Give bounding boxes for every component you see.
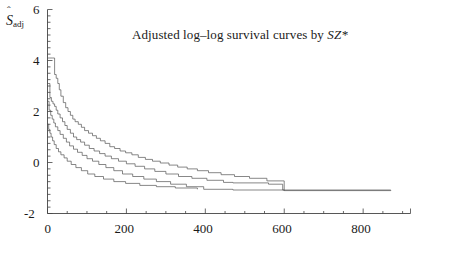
survival-curve-curve-2 <box>48 84 391 191</box>
x-axis-ticks <box>48 209 411 214</box>
axis-lines <box>48 10 411 214</box>
survival-curve-curve-3 <box>48 101 285 190</box>
figure: Adjusted log–log survival curves by SZ* … <box>0 0 451 254</box>
y-tick-label: -2 <box>24 207 35 220</box>
x-tick-label: 200 <box>114 222 134 235</box>
x-tick-label: 600 <box>272 222 292 235</box>
y-tick-label: 2 <box>33 105 40 118</box>
x-tick-label: 800 <box>351 222 371 235</box>
y-tick-label: 0 <box>33 156 40 169</box>
x-tick-label: 0 <box>45 222 52 235</box>
survival-curves <box>48 58 391 191</box>
x-tick-label: 400 <box>193 222 213 235</box>
survival-curve-curve-1 <box>48 58 391 191</box>
survival-curve-curve-4 <box>48 124 198 189</box>
y-axis-ticks <box>48 10 53 214</box>
y-tick-label: 6 <box>33 3 40 16</box>
plot-area <box>0 0 451 254</box>
y-tick-label: 4 <box>33 54 40 67</box>
